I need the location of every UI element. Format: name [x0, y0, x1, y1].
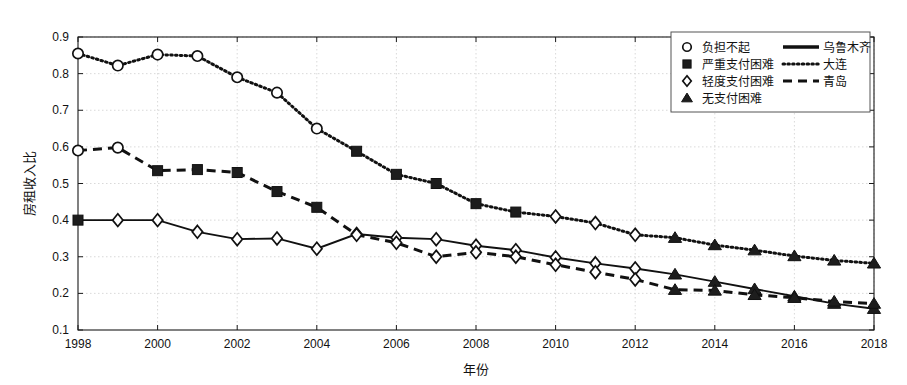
data-point-marker	[232, 233, 242, 246]
data-point-marker	[312, 242, 322, 255]
data-point-marker	[113, 60, 123, 70]
data-point-marker	[312, 202, 322, 212]
legend-series-label: 大连	[823, 57, 847, 72]
data-point-marker	[391, 169, 401, 179]
line-chart: 0.10.20.30.40.50.60.70.80.9 199820002002…	[0, 0, 907, 385]
data-point-marker	[152, 49, 162, 59]
data-point-marker	[431, 179, 441, 189]
data-point-marker	[352, 146, 362, 156]
data-point-marker	[312, 123, 322, 133]
x-tick-label: 2014	[701, 337, 728, 351]
data-point-marker	[431, 250, 441, 263]
data-point-marker	[550, 210, 560, 223]
data-point-marker	[153, 166, 163, 176]
data-point-marker	[113, 142, 123, 152]
data-point-marker	[590, 217, 600, 230]
y-tick-label: 0.4	[52, 213, 69, 227]
x-tick-label: 2012	[622, 337, 649, 351]
data-point-marker	[431, 233, 441, 246]
data-point-marker	[73, 48, 83, 58]
data-point-marker	[630, 228, 640, 241]
legend-marker-label: 无支付困难	[702, 92, 762, 106]
data-point-marker	[192, 165, 202, 175]
data-point-marker	[192, 51, 202, 61]
legend-series-label: 青岛	[823, 74, 847, 89]
y-tick-label: 0.1	[52, 323, 69, 337]
data-point-marker	[471, 199, 481, 209]
x-tick-label: 2006	[383, 337, 410, 351]
data-point-marker	[272, 87, 282, 97]
x-tick-label: 2008	[463, 337, 490, 351]
y-axis-title: 房租收入比	[22, 151, 37, 216]
y-tick-label: 0.2	[52, 286, 69, 300]
y-tick-label: 0.7	[52, 103, 69, 117]
data-point-marker	[272, 232, 282, 245]
data-point-marker	[113, 214, 123, 227]
data-point-marker	[272, 187, 282, 197]
x-tick-label: 2016	[781, 337, 808, 351]
data-point-marker	[73, 145, 83, 155]
y-tick-label: 0.8	[52, 67, 69, 81]
y-tick-label: 0.9	[52, 30, 69, 44]
legend-marker-circle	[683, 43, 692, 52]
data-point-marker	[511, 207, 521, 217]
chart-figure: 0.10.20.30.40.50.60.70.80.9 199820002002…	[0, 0, 907, 385]
x-tick-label: 2018	[861, 337, 888, 351]
data-point-marker	[232, 72, 242, 82]
axis-titles: 年份房租收入比	[22, 151, 489, 377]
data-point-marker	[192, 225, 202, 238]
data-point-marker	[351, 228, 361, 241]
x-tick-label: 2002	[224, 337, 251, 351]
x-tick-label: 2010	[542, 337, 569, 351]
y-tick-label: 0.3	[52, 250, 69, 264]
y-tick-label: 0.5	[52, 177, 69, 191]
legend-marker-label: 负担不起	[702, 41, 750, 55]
x-tick-label: 2000	[144, 337, 171, 351]
data-point-marker	[590, 266, 600, 279]
legend-marker-label: 严重支付困难	[702, 58, 774, 72]
legend-series-label: 乌鲁木齐	[823, 40, 871, 55]
legend-marker-label: 轻度支付困难	[702, 74, 774, 89]
data-point-marker	[630, 273, 640, 286]
x-tick-label: 2004	[303, 337, 330, 351]
data-point-marker	[73, 215, 83, 225]
legend-marker-square	[683, 60, 691, 68]
chart-legend[interactable]: 负担不起严重支付困难轻度支付困难无支付困难乌鲁木齐大连青岛	[671, 32, 871, 112]
series-青岛	[73, 142, 881, 308]
data-point-marker	[828, 254, 841, 265]
data-point-marker	[152, 214, 162, 227]
x-axis-title: 年份	[463, 362, 489, 377]
x-tick-label: 1998	[65, 337, 92, 351]
data-point-marker	[867, 298, 880, 309]
y-tick-label: 0.6	[52, 140, 69, 154]
data-point-marker	[232, 168, 242, 178]
